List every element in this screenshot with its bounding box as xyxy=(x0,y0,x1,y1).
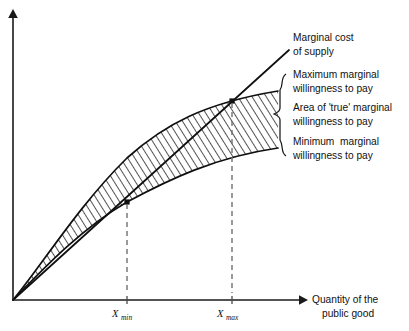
minimum-wtp-label-line1: Minimum marginal xyxy=(293,136,379,147)
true-area-label-line2: willingness to pay xyxy=(292,116,374,127)
minimum-wtp-label-line2: willingness to pay xyxy=(292,150,374,161)
tick-label-xmax-subscript: max xyxy=(226,313,239,322)
intersection-dot-xmax xyxy=(229,98,234,103)
true-wtp-shaded-band xyxy=(13,91,278,300)
intersection-dot-xmin xyxy=(124,199,129,204)
marginal-cost-line xyxy=(13,50,289,300)
x-axis-arrow-icon xyxy=(299,295,308,305)
marginal-cost-label-line2: of supply xyxy=(293,46,335,57)
economics-diagram: X min X max Quantity of the public good … xyxy=(0,0,409,331)
x-axis-label-line1: Quantity of the xyxy=(312,294,379,305)
tick-label-xmin-subscript: min xyxy=(121,313,132,322)
maximum-wtp-label-line1: Maximum marginal xyxy=(293,69,379,80)
x-axis-label-line2: public good xyxy=(322,308,374,319)
tick-label-xmin-symbol: X xyxy=(111,308,119,319)
y-axis-arrow-icon xyxy=(8,9,18,18)
marginal-cost-label-line1: Marginal cost xyxy=(293,32,354,43)
diagram-canvas: X min X max Quantity of the public good … xyxy=(0,0,409,331)
maximum-wtp-label-line2: willingness to pay xyxy=(292,83,374,94)
tick-label-xmax-symbol: X xyxy=(216,308,224,319)
true-area-label-line1: Area of 'true' marginal xyxy=(293,102,392,113)
hatch-region xyxy=(13,91,278,300)
